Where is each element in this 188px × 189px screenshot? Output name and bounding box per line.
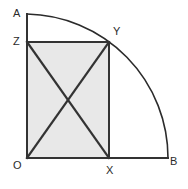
vertex-label-a: A xyxy=(13,8,20,19)
vertex-label-x: X xyxy=(106,165,113,176)
vertex-label-z: Z xyxy=(13,36,20,47)
geometry-canvas xyxy=(0,0,188,189)
vertex-label-o: O xyxy=(13,160,22,171)
geometry-diagram: A Z Y O X B xyxy=(0,0,188,189)
vertex-label-y: Y xyxy=(113,26,120,37)
vertex-label-b: B xyxy=(170,156,177,167)
